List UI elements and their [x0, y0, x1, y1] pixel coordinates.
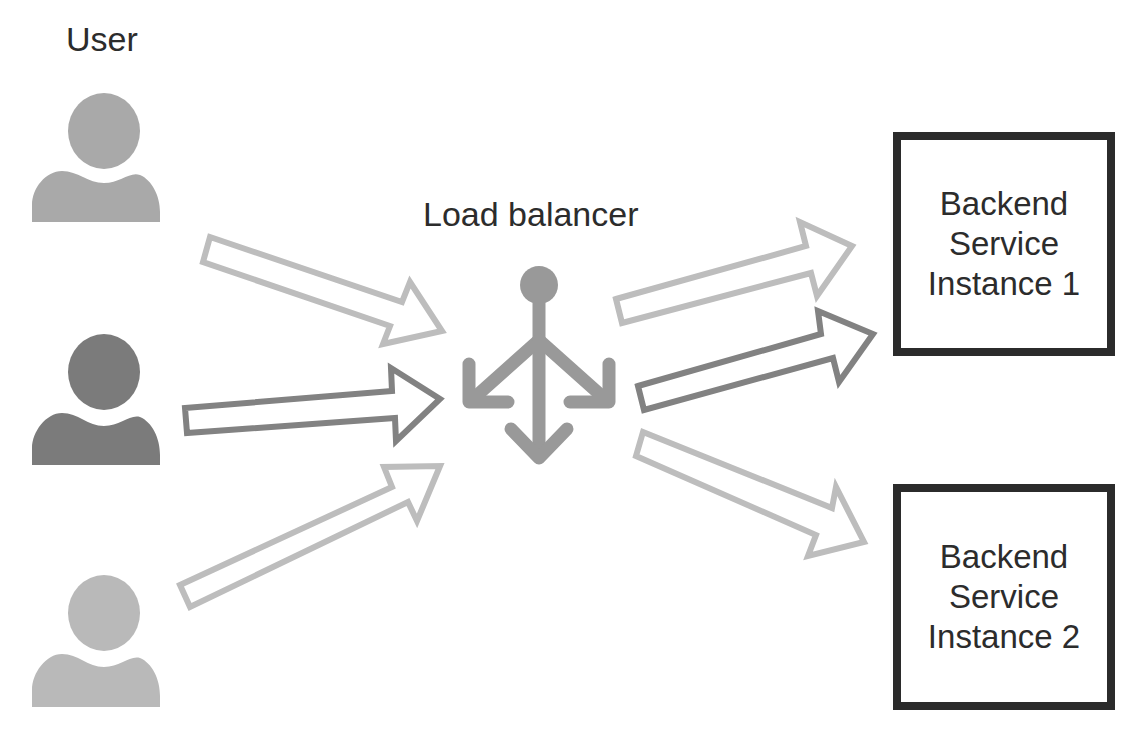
arrow-right-icon	[638, 311, 873, 410]
user-icon	[32, 575, 160, 707]
backend-2-line3: Instance 2	[928, 617, 1080, 657]
load-balancer-node-icon	[520, 266, 558, 304]
user-icon	[32, 334, 160, 465]
arrow-right-icon	[180, 466, 440, 607]
backend-1-line3: Instance 1	[928, 264, 1080, 304]
arrow-right-icon	[185, 368, 440, 441]
backend-2-line2: Service	[949, 577, 1059, 617]
user-icon	[32, 93, 160, 222]
arrow-right-icon	[203, 237, 442, 344]
backend-1-line2: Service	[949, 224, 1059, 264]
load-balancer-icon	[469, 286, 609, 458]
backend-1-line1: Backend	[940, 184, 1068, 224]
backend-2-line1: Backend	[940, 537, 1068, 577]
backend-service-instance-1: Backend Service Instance 1	[893, 132, 1115, 356]
backend-service-instance-2: Backend Service Instance 2	[893, 484, 1115, 710]
arrow-right-icon	[636, 432, 864, 556]
